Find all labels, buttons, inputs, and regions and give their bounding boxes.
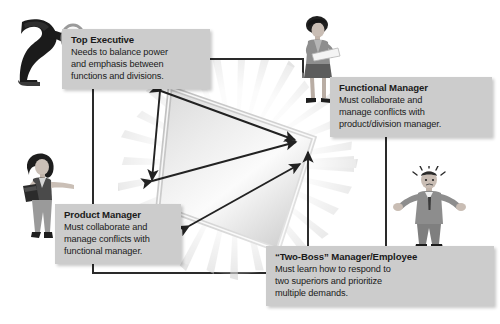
arrow-product-functional [152, 142, 296, 181]
callout-title: Product Manager [64, 209, 172, 221]
stressed-man-shrugging-icon [392, 166, 466, 252]
callout-product-manager: Product Manager Must collaborate and man… [55, 204, 181, 264]
callout-body: Must collaborate and manage conflicts wi… [64, 222, 172, 258]
callout-functional-manager: Functional Manager Must collaborate and … [330, 77, 492, 137]
arrow-top-exec-functional [161, 91, 295, 140]
callout-top-executive: Top Executive Needs to balance power and… [62, 29, 210, 89]
callout-body: Must collaborate and manage conflicts wi… [339, 95, 483, 131]
diagram-canvas: Top Executive Needs to balance power and… [0, 0, 500, 324]
arrow-top-exec-product [152, 91, 160, 180]
callout-title: Top Executive [71, 34, 201, 46]
callout-two-boss-manager: “Two-Boss” Manager/Employee Must learn h… [266, 246, 494, 306]
callout-title: “Two-Boss” Manager/Employee [275, 251, 485, 263]
callout-body: Needs to balance power and emphasis betw… [71, 47, 201, 83]
callout-body: Must learn how to respond to two superio… [275, 264, 485, 300]
arrow-product-two-boss [189, 164, 300, 226]
callout-title: Functional Manager [339, 82, 483, 94]
